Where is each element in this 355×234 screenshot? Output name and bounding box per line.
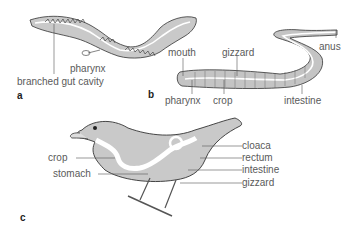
label-c-intestine: intestine [242, 165, 279, 175]
label-b-mouth: mouth [168, 48, 196, 58]
label-c-rectum: rectum [242, 153, 273, 163]
panel-letter-c: c [20, 213, 26, 223]
label-b-gizzard: gizzard [222, 48, 254, 58]
earthworm-drawing [177, 30, 337, 94]
label-c-crop: crop [48, 153, 67, 163]
label-c-gizzard: gizzard [242, 178, 274, 188]
label-b-crop: crop [213, 96, 232, 106]
label-a-pharynx: pharynx [70, 64, 106, 74]
label-b-anus: anus [319, 42, 341, 52]
panel-letter-b: b [148, 90, 154, 100]
label-b-intestine: intestine [284, 96, 321, 106]
digestive-systems-illustration [0, 0, 355, 234]
label-b-pharynx: pharynx [165, 96, 201, 106]
label-c-cloaca: cloaca [242, 141, 271, 151]
panel-letter-a: a [17, 91, 23, 101]
label-a-branched-gut-cavity: branched gut cavity [17, 77, 104, 87]
bird-drawing [70, 118, 242, 216]
flatworm-drawing [30, 16, 196, 74]
label-c-stomach: stomach [53, 169, 91, 179]
